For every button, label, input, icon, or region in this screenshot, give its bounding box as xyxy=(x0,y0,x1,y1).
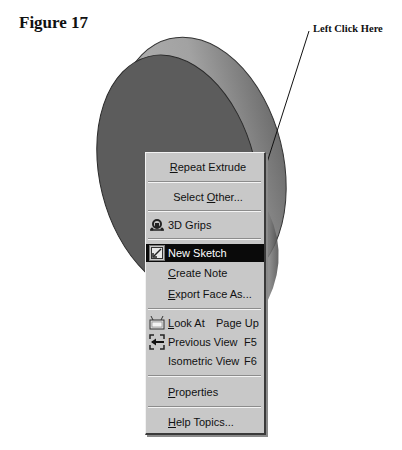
3d-grips-icon xyxy=(149,217,165,233)
menu-separator xyxy=(148,375,261,377)
menu-item-shortcut: F5 xyxy=(244,336,257,348)
menu-separator xyxy=(148,210,261,212)
menu-item-look-at[interactable]: Look At Page Up xyxy=(146,314,264,332)
menu-item-shortcut: F6 xyxy=(244,355,257,367)
menu-item-3d-grips[interactable]: 3D Grips xyxy=(146,216,264,234)
new-sketch-icon xyxy=(149,245,165,261)
menu-item-label: Properties xyxy=(168,386,218,398)
menu-item-label: 3D Grips xyxy=(168,219,211,231)
menu-item-label: Previous View xyxy=(168,336,238,348)
menu-item-label: Help Topics... xyxy=(168,416,234,428)
menu-item-label: Create Note xyxy=(168,267,227,279)
menu-item-label: Repeat Extrude xyxy=(164,161,246,173)
menu-item-create-note[interactable]: Create Note xyxy=(146,264,264,282)
menu-item-select-other[interactable]: Select Other... xyxy=(146,188,264,206)
menu-item-export-face-as[interactable]: Export Face As... xyxy=(146,285,264,303)
menu-item-previous-view[interactable]: Previous View F5 xyxy=(146,333,264,351)
menu-item-new-sketch[interactable]: New Sketch xyxy=(146,244,264,262)
menu-item-help-topics[interactable]: Help Topics... xyxy=(146,413,264,431)
menu-separator xyxy=(148,308,261,310)
menu-separator xyxy=(148,406,261,408)
menu-item-label: Isometric View xyxy=(168,355,239,367)
menu-item-label: Select Other... xyxy=(167,191,243,203)
menu-separator xyxy=(148,238,261,240)
menu-item-properties[interactable]: Properties xyxy=(146,383,264,401)
menu-item-label: Look At xyxy=(168,317,205,329)
menu-item-shortcut: Page Up xyxy=(216,317,259,329)
menu-item-label: New Sketch xyxy=(168,247,227,259)
menu-item-isometric-view[interactable]: Isometric View F6 xyxy=(146,352,264,370)
menu-item-label: Export Face As... xyxy=(168,288,252,300)
callout-label: Left Click Here xyxy=(313,23,383,34)
context-menu: Repeat Extrude Select Other... 3D Grips xyxy=(145,152,266,435)
menu-separator xyxy=(148,181,261,183)
look-at-icon xyxy=(149,315,165,331)
previous-view-icon xyxy=(149,334,165,350)
menu-item-repeat-extrude[interactable]: Repeat Extrude xyxy=(146,158,264,176)
